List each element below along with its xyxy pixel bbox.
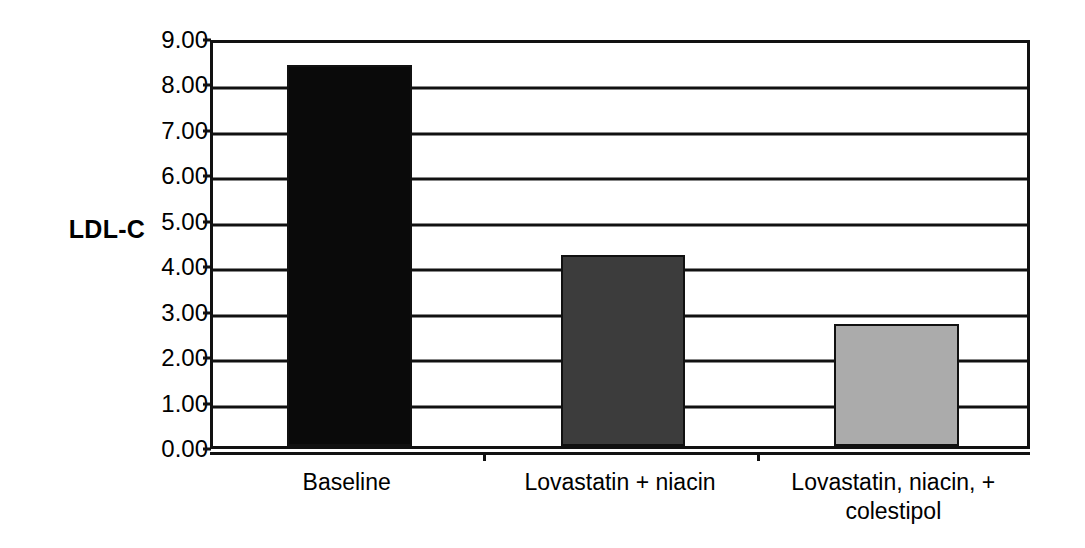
y-axis-tick-label: 2.00 — [152, 346, 208, 370]
y-axis-tick-mark — [203, 266, 211, 269]
bar — [287, 65, 411, 446]
x-axis-separator — [757, 452, 760, 461]
x-axis-category-label: Baseline — [198, 468, 495, 497]
y-axis-tick-label: 0.00 — [152, 437, 208, 461]
y-axis-tick-mark — [203, 84, 211, 87]
x-axis-category-label: Lovastatin, niacin, + colestipol — [745, 468, 1042, 526]
ldl-c-bar-chart: LDL-C 9.008.007.006.005.004.003.002.001.… — [0, 0, 1085, 548]
y-axis-tick-mark — [203, 357, 211, 360]
y-axis-tick-label: 5.00 — [152, 210, 208, 234]
y-axis-tick-mark — [203, 39, 211, 42]
y-axis-tick-label: 4.00 — [152, 255, 208, 279]
x-axis-category-labels: BaselineLovastatin + niacinLovastatin, n… — [210, 468, 1030, 542]
y-axis-tick-mark — [203, 311, 211, 314]
plot-area — [210, 40, 1030, 449]
y-axis-tick-mark — [203, 402, 211, 405]
bar — [561, 255, 685, 446]
y-axis-tick-labels: 9.008.007.006.005.004.003.002.001.000.00 — [152, 40, 208, 449]
x-axis-separator — [483, 452, 486, 461]
y-axis-tick-label: 1.00 — [152, 392, 208, 416]
y-axis-tick-mark — [203, 129, 211, 132]
bar — [834, 324, 958, 446]
y-axis-tick-label: 9.00 — [152, 28, 208, 52]
y-axis-tick-label: 7.00 — [152, 119, 208, 143]
y-axis-tick-mark — [203, 175, 211, 178]
x-axis-line — [210, 452, 1030, 455]
y-axis-tick-mark — [203, 448, 211, 451]
y-axis-tick-mark — [203, 220, 211, 223]
x-axis-category-label: Lovastatin + niacin — [471, 468, 768, 497]
y-axis-tick-label: 6.00 — [152, 164, 208, 188]
y-axis-tick-label: 8.00 — [152, 73, 208, 97]
y-axis-tick-label: 3.00 — [152, 301, 208, 325]
bars — [213, 43, 1027, 446]
